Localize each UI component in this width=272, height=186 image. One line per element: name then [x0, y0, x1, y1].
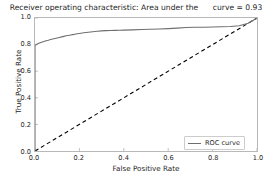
legend-swatch-roc-curve: [188, 143, 201, 144]
x-tick-label: 0.6: [153, 154, 183, 162]
y-axis-label: True Positive Rate: [14, 27, 23, 137]
chance-diagonal-line: [35, 18, 257, 151]
tick-marks-group: [35, 18, 257, 151]
x-axis-label: False Positive Rate: [34, 164, 258, 173]
plot-area: [34, 17, 258, 152]
x-tick-label: 0.2: [64, 154, 94, 162]
x-tick-label: 0.0: [19, 154, 49, 162]
roc-curve-line: [35, 18, 257, 151]
legend: ROC curve: [184, 136, 245, 150]
x-tick-label: 0.4: [109, 154, 139, 162]
plot-svg: [35, 18, 257, 151]
roc-chart-figure: Receiver operating characteristic: Area …: [0, 0, 272, 186]
chart-title: Receiver operating characteristic: Area …: [0, 3, 272, 13]
x-tick-label: 0.8: [198, 154, 228, 162]
x-tick-label: 1.0: [243, 154, 272, 162]
legend-label-roc-curve: ROC curve: [205, 139, 240, 147]
y-tick-label: 1.0: [3, 14, 31, 21]
